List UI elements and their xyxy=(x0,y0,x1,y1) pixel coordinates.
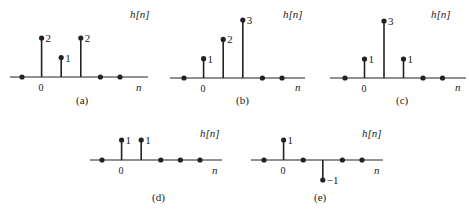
y-axis-label: h[n] xyxy=(130,8,150,20)
value-label: 2 xyxy=(85,32,91,44)
value-label: 1 xyxy=(145,134,151,146)
panel-caption: (a) xyxy=(76,94,89,107)
stem-dot xyxy=(117,74,122,79)
y-axis-label: h[n] xyxy=(431,8,451,20)
stem-plots-figure: 2012h[n]n(a)1023h[n]n(b)1031h[n]n(c)101h… xyxy=(0,0,469,214)
value-label: 1 xyxy=(208,53,214,65)
y-axis-label: h[n] xyxy=(283,8,303,20)
stem-plot-b: 1023h[n]n(b) xyxy=(170,8,305,107)
stem-dot xyxy=(342,75,347,80)
panel-caption: (b) xyxy=(236,94,249,107)
panel-caption: (d) xyxy=(152,191,165,204)
stem-plot-e: 10−1h[n]n(e) xyxy=(251,127,383,204)
stem-plot-c: 1031h[n]n(c) xyxy=(330,8,466,107)
stem-plot-a: 2012h[n]n(a) xyxy=(10,8,150,107)
stem-dot xyxy=(139,137,144,142)
stem-dot xyxy=(261,157,266,162)
stem-plot-d: 101h[n]n(d) xyxy=(90,127,222,204)
stem-dot xyxy=(240,18,245,23)
stem-dot xyxy=(158,157,163,162)
stem-dot xyxy=(178,157,183,162)
stem-dot xyxy=(221,37,226,42)
x-axis-label: n xyxy=(136,81,142,93)
value-label: 3 xyxy=(388,15,394,27)
zero-tick-label: 0 xyxy=(119,165,124,176)
stem-dot xyxy=(440,75,445,80)
value-label: 2 xyxy=(227,33,233,45)
value-label: 1 xyxy=(369,53,375,65)
zero-tick-label: 0 xyxy=(39,82,44,93)
value-label: 2 xyxy=(46,32,52,44)
value-label: −1 xyxy=(327,174,339,186)
stem-dot xyxy=(340,157,345,162)
zero-tick-label: 0 xyxy=(281,165,286,176)
y-axis-label: h[n] xyxy=(362,127,382,139)
stem-dot xyxy=(362,56,367,61)
stem-dot xyxy=(197,157,202,162)
stem-dot xyxy=(181,75,186,80)
value-label: 1 xyxy=(126,134,132,146)
stem-dot xyxy=(98,74,103,79)
x-axis-label: n xyxy=(455,81,461,93)
panel-caption: (e) xyxy=(314,191,327,204)
stem-dot xyxy=(401,56,406,61)
x-axis-label: n xyxy=(212,164,218,176)
y-axis-label: h[n] xyxy=(200,127,220,139)
zero-tick-label: 0 xyxy=(201,83,206,94)
stem-dot xyxy=(39,35,44,40)
stem-dot xyxy=(201,56,206,61)
x-axis-label: n xyxy=(374,164,380,176)
stem-dot xyxy=(99,157,104,162)
stem-dot xyxy=(119,137,124,142)
value-label: 1 xyxy=(408,53,414,65)
stem-dot xyxy=(320,177,325,182)
stem-dot xyxy=(359,157,364,162)
stem-dot xyxy=(420,75,425,80)
x-axis-label: n xyxy=(295,81,301,93)
value-label: 1 xyxy=(288,134,294,146)
stem-dot xyxy=(301,157,306,162)
value-label: 3 xyxy=(247,14,253,26)
stem-dot xyxy=(279,75,284,80)
stem-dot xyxy=(59,55,64,60)
stem-dot xyxy=(19,74,24,79)
value-label: 1 xyxy=(65,52,71,64)
panel-caption: (c) xyxy=(396,94,409,107)
stem-dot xyxy=(260,75,265,80)
zero-tick-label: 0 xyxy=(362,83,367,94)
stem-dot xyxy=(78,35,83,40)
stem-dot xyxy=(281,137,286,142)
stem-dot xyxy=(381,18,386,23)
